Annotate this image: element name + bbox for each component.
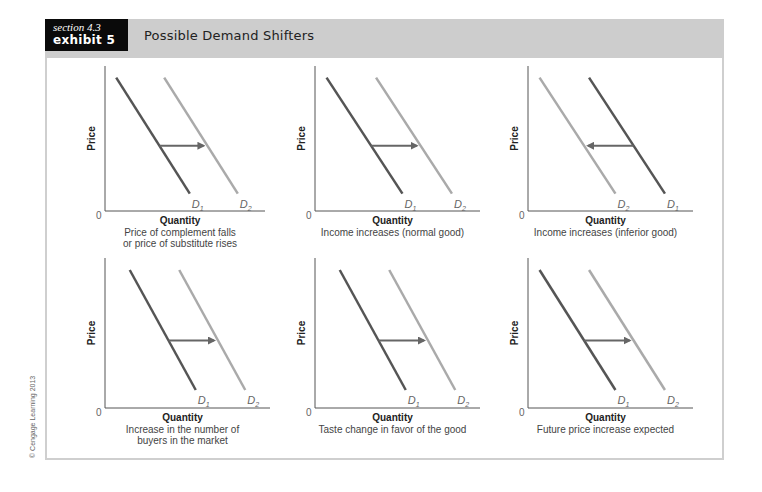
y-axis-label: Price: [86, 320, 97, 345]
demand-chart-5: 0PriceQuantityTaste change in favor of t…: [296, 258, 480, 435]
curve-label-d2: D2: [240, 198, 252, 212]
curve-label-d1: D1: [192, 198, 204, 212]
y-axis-label: Price: [296, 126, 307, 151]
y-axis-label: Price: [86, 126, 97, 151]
demand-curve-d1: [116, 78, 190, 194]
demand-curve-d1: [340, 270, 406, 390]
demand-curve-d2: [179, 270, 245, 390]
curve-label-d1: D1: [408, 394, 420, 408]
origin-label: 0: [519, 407, 525, 418]
demand-curve-d2: [540, 78, 616, 194]
chart-caption: Taste change in favor of the good: [319, 424, 467, 435]
x-axis-label: Quantity: [585, 215, 626, 226]
chart-caption: buyers in the market: [137, 435, 228, 446]
chart-caption: Price of complement falls: [124, 227, 236, 238]
demand-curve-d2: [164, 78, 238, 194]
chart-caption: Income increases (normal good): [321, 227, 464, 238]
chart-caption: Increase in the number of: [126, 424, 240, 435]
curve-label-d2: D2: [457, 394, 469, 408]
y-axis-label: Price: [509, 126, 520, 151]
origin-label: 0: [96, 210, 102, 221]
x-axis-label: Quantity: [162, 412, 203, 423]
curve-label-d1: D1: [617, 394, 629, 408]
origin-label: 0: [306, 210, 312, 221]
y-axis-label: Price: [296, 320, 307, 345]
demand-curve-d2: [376, 78, 452, 194]
demand-curve-d2: [389, 270, 455, 390]
origin-label: 0: [519, 210, 525, 221]
curve-label-d2: D2: [617, 198, 629, 212]
chart-caption: or price of substitute rises: [123, 238, 237, 249]
curve-label-d2: D2: [667, 394, 679, 408]
x-axis-label: Quantity: [372, 412, 413, 423]
x-axis-label: Quantity: [160, 215, 201, 226]
chart-caption: Income increases (inferior good): [534, 227, 677, 238]
demand-shift-charts: 0PriceQuantityPrice of complement fallso…: [0, 0, 762, 492]
chart-caption: Future price increase expected: [537, 424, 674, 435]
curve-label-d1: D1: [198, 394, 210, 408]
demand-chart-4: 0PriceQuantityIncrease in the number ofb…: [86, 258, 270, 446]
curve-label-d1: D1: [667, 198, 679, 212]
curve-label-d2: D2: [247, 394, 259, 408]
demand-curve-d1: [540, 270, 616, 390]
y-axis-label: Price: [509, 320, 520, 345]
demand-curve-d2: [589, 270, 665, 390]
x-axis-label: Quantity: [585, 412, 626, 423]
origin-label: 0: [96, 407, 102, 418]
demand-curve-d1: [130, 270, 196, 390]
demand-chart-3: 0PriceQuantityIncome increases (inferior…: [509, 66, 693, 238]
curve-label-d1: D1: [404, 198, 416, 212]
origin-label: 0: [306, 407, 312, 418]
x-axis-label: Quantity: [372, 215, 413, 226]
demand-chart-1: 0PriceQuantityPrice of complement fallso…: [86, 66, 265, 249]
demand-chart-6: 0PriceQuantityFuture price increase expe…: [509, 258, 693, 435]
demand-curve-d1: [327, 78, 403, 194]
demand-curve-d1: [589, 78, 665, 194]
curve-label-d2: D2: [454, 198, 466, 212]
demand-chart-2: 0PriceQuantityIncome increases (normal g…: [296, 66, 480, 238]
